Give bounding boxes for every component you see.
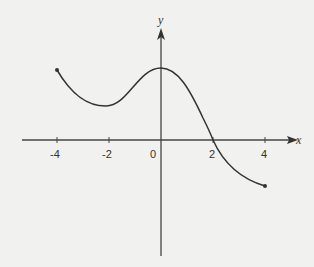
tick-label-neg2: -2 [102,148,112,160]
tick-label-4: 4 [261,148,267,160]
tick-label-0: 0 [150,148,156,160]
left-endpoint-dot [55,68,59,72]
right-endpoint-dot [263,184,267,188]
function-graph: x y -4 -2 0 2 4 [0,0,314,267]
y-axis-label: y [157,13,164,27]
tick-label-2: 2 [209,148,215,160]
x-axis-label: x [295,133,302,147]
tick-label-neg4: -4 [50,148,60,160]
